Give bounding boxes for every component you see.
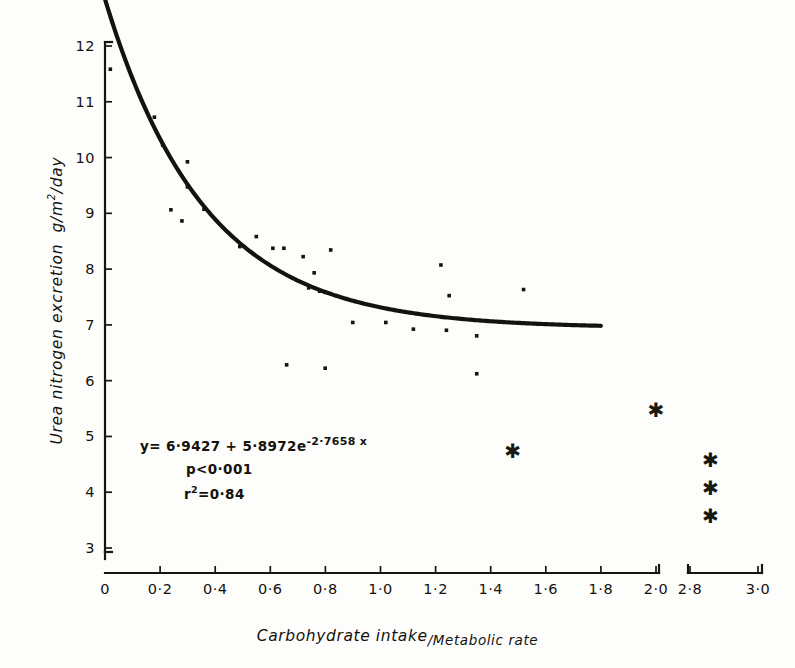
x-tick-label: 1·0 (368, 581, 393, 597)
fit-equation-exponent: -2·7658 x (306, 435, 367, 448)
data-point-dot (282, 246, 286, 250)
statistics-annotation: y= 6·9427 + 5·8972e-2·7658 x p<0·001 r2=… (140, 432, 367, 506)
data-point-dot (161, 143, 165, 147)
data-point-dot (318, 289, 322, 293)
y-tick-label: 10 (76, 150, 95, 166)
data-point-dot (153, 115, 157, 119)
data-point-asterisk: ✱ (702, 476, 719, 500)
y-tick-label: 9 (85, 205, 95, 221)
x-tick-label: 2·0 (644, 581, 669, 597)
data-point-dot (285, 363, 289, 367)
x-tick-label: 2·8 (678, 581, 703, 597)
data-points-dots (109, 67, 526, 375)
data-point-dot (351, 321, 355, 325)
y-tick-labels: 1211109876543 (76, 38, 95, 556)
y-tick-label: 7 (85, 317, 95, 333)
x-tick-label: 1·2 (423, 581, 448, 597)
y-tick-label: 12 (76, 38, 95, 54)
x-tick-label: 1·8 (589, 581, 614, 597)
data-point-dot (312, 271, 316, 275)
plot-canvas: 1211109876543 00·20·40·60·81·01·21·41·61… (0, 0, 795, 668)
p-value-annotation: p<0·001 (186, 458, 367, 482)
data-point-dot (323, 291, 327, 295)
data-point-asterisk: ✱ (702, 504, 719, 528)
data-points-asterisks: ✱✱✱✱✱ (504, 398, 718, 528)
fit-equation: y= 6·9427 + 5·8972e-2·7658 x (140, 432, 367, 458)
data-point-dot (186, 160, 190, 164)
data-point-dot (255, 235, 259, 239)
y-tick-label: 5 (85, 428, 95, 444)
y-axis-title: Urea nitrogen excretion g/m2/day (46, 91, 65, 511)
data-point-dot (301, 255, 305, 259)
y-tick-label: 4 (85, 484, 95, 500)
data-point-asterisk: ✱ (702, 448, 719, 472)
data-point-dot (169, 208, 173, 212)
x-tick-label: 0·4 (203, 581, 228, 597)
x-tick-label: 0 (100, 581, 110, 597)
data-point-dot (329, 248, 333, 252)
x-tick-labels: 00·20·40·60·81·01·21·41·61·82·02·83·0 (100, 581, 770, 597)
x-tick-label: 0·2 (148, 581, 173, 597)
x-axis-title-denominator: /Metabolic rate (428, 632, 539, 648)
x-axis-title-numerator: Carbohydrate intake (257, 627, 428, 645)
r-squared-value: =0·84 (198, 485, 245, 501)
data-point-asterisk: ✱ (504, 439, 521, 463)
data-point-dot (323, 366, 327, 370)
y-tick-label: 6 (85, 373, 95, 389)
data-point-dot (334, 294, 338, 298)
exponential-fit-curve (105, 0, 601, 326)
data-point-dot (202, 207, 206, 211)
data-point-dot (384, 321, 388, 325)
r-squared-prefix: r (184, 485, 191, 501)
data-point-dot (445, 328, 449, 332)
data-point-dot (307, 286, 311, 290)
r-squared-annotation: r2=0·84 (184, 482, 367, 506)
data-point-dot (412, 327, 416, 331)
scatter-plot-figure: 1211109876543 00·20·40·60·81·01·21·41·61… (0, 0, 795, 668)
data-point-dot (475, 372, 479, 376)
y-axis-title-units: g/m (48, 200, 66, 232)
data-point-asterisk: ✱ (648, 398, 665, 422)
x-tick-label: 1·4 (478, 581, 503, 597)
x-tick-label: 0·8 (313, 581, 338, 597)
y-axis-title-main: Urea nitrogen excretion (48, 244, 66, 445)
data-point-dot (186, 185, 190, 189)
y-axis-title-units-exponent: 2 (46, 193, 57, 200)
y-tick-label: 8 (85, 261, 95, 277)
data-point-dot (439, 263, 443, 267)
data-point-dot (238, 245, 242, 249)
fit-equation-base: y= 6·9427 + 5·8972e (140, 438, 306, 454)
data-point-dot (271, 246, 275, 250)
y-tick-label: 11 (76, 94, 95, 110)
x-tick-label: 0·6 (258, 581, 283, 597)
y-axis-title-units-tail: /day (48, 157, 66, 194)
data-point-dot (475, 334, 479, 338)
x-tick-label: 1·6 (534, 581, 559, 597)
x-axis: 00·20·40·60·81·01·21·41·61·82·02·83·0 (100, 552, 770, 597)
y-axis: 1211109876543 (76, 38, 112, 556)
data-point-dot (447, 294, 451, 298)
data-point-dot (109, 67, 113, 71)
y-tick-label: 3 (85, 540, 95, 556)
x-axis-title: Carbohydrate intake/Metabolic rate (0, 627, 795, 645)
data-point-dot (522, 288, 526, 292)
data-point-dot (180, 219, 184, 223)
x-tick-label: 3·0 (746, 581, 771, 597)
